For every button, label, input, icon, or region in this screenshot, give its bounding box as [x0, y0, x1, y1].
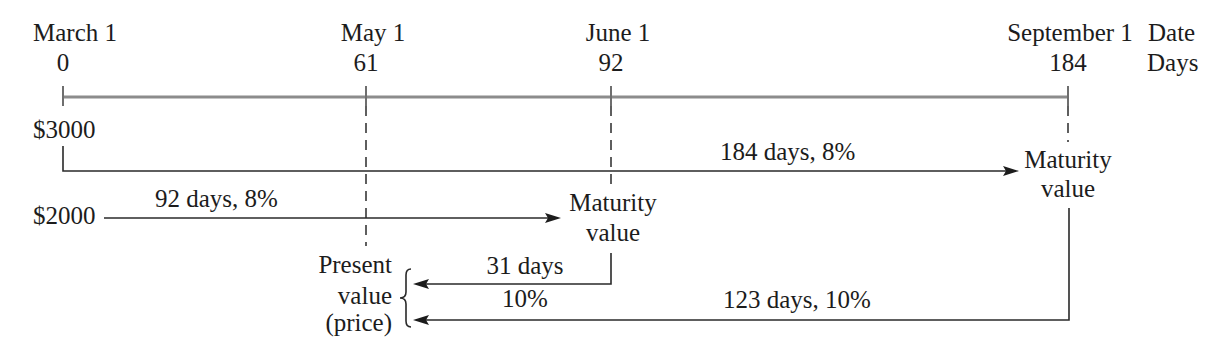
row-label-date: Date [1148, 19, 1195, 46]
present-value-line3: (price) [325, 309, 392, 337]
days-label-92: 92 [599, 49, 624, 76]
note-2000-arrow [104, 213, 561, 223]
days-label-61: 61 [354, 49, 379, 76]
present-value-line2: value [338, 282, 392, 309]
date-label-september-1: September 1 [1007, 19, 1133, 46]
date-label-may-1: May 1 [341, 19, 406, 46]
maturity-label-sep-line2: value [1041, 175, 1095, 202]
maturity-label-june-line1: Maturity [569, 189, 657, 216]
date-label-march-1: March 1 [33, 19, 117, 46]
days-label-0: 0 [57, 49, 70, 76]
principal-3000: $3000 [33, 116, 96, 143]
maturity-label-sep-line1: Maturity [1024, 146, 1112, 173]
term-label-92-days: 92 days, 8% [155, 185, 278, 212]
curly-brace-icon [400, 269, 411, 327]
discount-rate-label: 10% [502, 285, 548, 312]
timeline-diagram: March 1 May 1 June 1 September 1 Date 0 … [0, 0, 1226, 353]
note-3000-arrow [63, 146, 1019, 176]
maturity-label-june-line2: value [586, 219, 640, 246]
discount-long-label: 123 days, 10% [723, 286, 871, 313]
date-label-june-1: June 1 [586, 19, 651, 46]
row-label-days: Days [1147, 49, 1198, 76]
discount-days-label: 31 days [486, 252, 563, 279]
days-label-184: 184 [1049, 49, 1087, 76]
timeline-axis [63, 86, 1068, 106]
principal-2000: $2000 [33, 202, 96, 229]
present-value-line1: Present [318, 251, 392, 278]
term-label-184-days: 184 days, 8% [720, 138, 855, 165]
